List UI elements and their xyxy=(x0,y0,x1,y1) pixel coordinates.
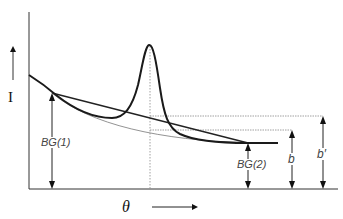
y-axis-label: I xyxy=(8,90,13,105)
b-label: b xyxy=(287,153,296,165)
intensity-curve xyxy=(29,45,278,143)
bg2-label: BG(2) xyxy=(236,159,267,170)
b-prime-label: b′ xyxy=(316,148,327,160)
bg1-label: BG(1) xyxy=(40,137,71,148)
diffraction-peak-diagram xyxy=(0,0,343,219)
x-axis-label: θ xyxy=(122,199,130,215)
